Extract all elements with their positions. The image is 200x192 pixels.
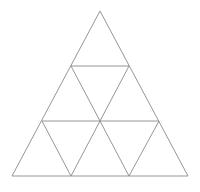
triangle-figure: [0, 0, 200, 192]
figure-background: [0, 0, 200, 192]
